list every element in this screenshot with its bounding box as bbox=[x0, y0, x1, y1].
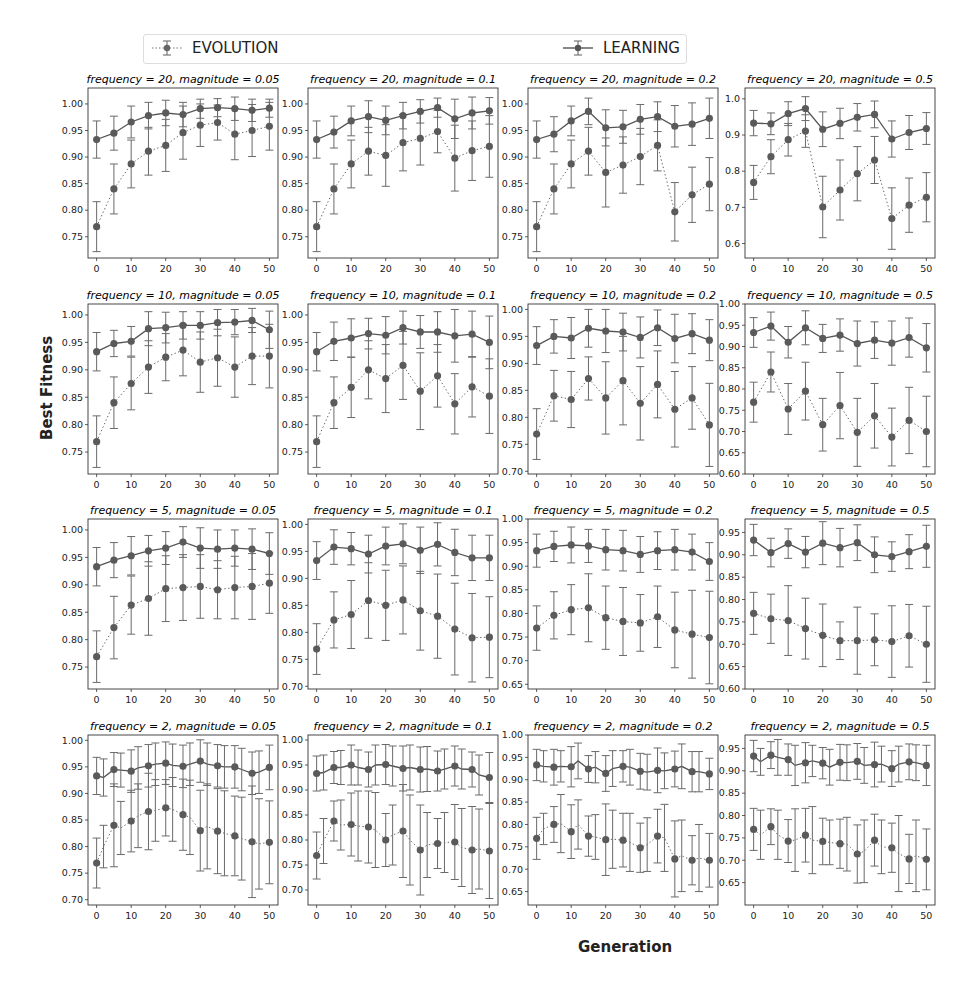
learning-marker bbox=[330, 128, 337, 135]
x-tick-label: 50 bbox=[483, 479, 495, 490]
evolution-marker bbox=[706, 421, 713, 428]
y-tick-label: 0.90 bbox=[282, 364, 303, 375]
y-tick-label: 0.70 bbox=[282, 884, 303, 895]
x-tick-label: 20 bbox=[817, 263, 829, 274]
learning-marker bbox=[399, 540, 406, 547]
x-tick-label: 10 bbox=[565, 479, 577, 490]
learning-marker bbox=[706, 558, 713, 565]
evolution-marker bbox=[313, 852, 320, 859]
evolution-marker bbox=[819, 632, 826, 639]
y-tick-label: 0.85 bbox=[719, 571, 740, 582]
x-tick-label: 30 bbox=[414, 479, 426, 490]
x-tick-label: 50 bbox=[920, 694, 932, 705]
evolution-marker bbox=[417, 135, 424, 142]
x-tick-label: 30 bbox=[194, 694, 206, 705]
x-tick-label: 40 bbox=[449, 910, 461, 921]
y-tick-label: 0.60 bbox=[719, 468, 740, 479]
y-tick-label: 0.85 bbox=[719, 787, 740, 798]
evolution-marker bbox=[750, 610, 757, 617]
learning-marker bbox=[365, 330, 372, 337]
learning-marker bbox=[533, 136, 540, 143]
x-tick-label: 50 bbox=[483, 263, 495, 274]
learning-marker bbox=[248, 107, 255, 114]
y-tick-label: 0.80 bbox=[502, 608, 523, 619]
learning-marker bbox=[451, 762, 458, 769]
x-tick-label: 40 bbox=[886, 479, 898, 490]
learning-marker bbox=[923, 125, 930, 132]
evolution-marker bbox=[568, 396, 575, 403]
y-tick-label: 0.80 bbox=[502, 412, 523, 423]
x-tick-label: 20 bbox=[160, 263, 172, 274]
y-tick-label: 0.95 bbox=[502, 331, 523, 342]
x-tick-label: 10 bbox=[565, 694, 577, 705]
subplot-title: frequency = 10, magnitude = 0.2 bbox=[530, 289, 716, 302]
y-tick-label: 0.75 bbox=[502, 841, 523, 852]
evolution-marker bbox=[486, 143, 493, 150]
x-tick-label: 30 bbox=[414, 263, 426, 274]
evolution-marker bbox=[637, 400, 644, 407]
evolution-marker bbox=[619, 377, 626, 384]
learning-marker bbox=[836, 544, 843, 551]
subplot: frequency = 5, magnitude = 0.50.600.650.… bbox=[719, 504, 935, 705]
learning-marker bbox=[888, 765, 895, 772]
learning-marker bbox=[619, 763, 626, 770]
y-tick-label: 0.65 bbox=[502, 886, 523, 897]
learning-marker bbox=[197, 105, 204, 112]
x-tick-label: 0 bbox=[314, 263, 320, 274]
evolution-marker bbox=[365, 148, 372, 155]
evolution-marker bbox=[248, 352, 255, 359]
y-tick-label: 0.75 bbox=[502, 231, 523, 242]
x-tick-label: 0 bbox=[314, 479, 320, 490]
evolution-marker bbox=[923, 428, 930, 435]
evolution-marker bbox=[162, 585, 169, 592]
learning-marker bbox=[802, 759, 809, 766]
x-tick-label: 10 bbox=[345, 479, 357, 490]
subplot: frequency = 5, magnitude = 0.050.750.800… bbox=[62, 504, 278, 705]
x-tick-label: 50 bbox=[263, 910, 275, 921]
learning-marker bbox=[854, 539, 861, 546]
evolution-marker bbox=[313, 645, 320, 652]
learning-marker bbox=[905, 129, 912, 136]
y-tick-label: 0.85 bbox=[719, 362, 740, 373]
evolution-marker bbox=[785, 405, 792, 412]
learning-marker bbox=[767, 323, 774, 330]
y-tick-label: 0.75 bbox=[719, 405, 740, 416]
evolution-marker bbox=[706, 857, 713, 864]
learning-marker bbox=[585, 108, 592, 115]
evolution-marker bbox=[197, 122, 204, 129]
x-tick-label: 0 bbox=[94, 263, 100, 274]
evolution-marker bbox=[550, 612, 557, 619]
y-tick-label: 0.80 bbox=[282, 834, 303, 845]
learning-marker bbox=[365, 113, 372, 120]
y-tick-label: 1.00 bbox=[62, 524, 83, 535]
x-tick-label: 50 bbox=[703, 263, 715, 274]
learning-marker bbox=[382, 542, 389, 549]
learning-marker bbox=[802, 549, 809, 556]
x-tick-label: 40 bbox=[229, 263, 241, 274]
learning-marker bbox=[602, 546, 609, 553]
x-tick-label: 10 bbox=[345, 694, 357, 705]
learning-marker bbox=[854, 114, 861, 121]
learning-marker bbox=[179, 322, 186, 329]
learning-marker bbox=[619, 123, 626, 130]
x-tick-label: 40 bbox=[449, 479, 461, 490]
learning-marker bbox=[836, 331, 843, 338]
x-tick-label: 40 bbox=[669, 910, 681, 921]
evolution-marker bbox=[785, 136, 792, 143]
learning-marker bbox=[654, 324, 661, 331]
y-tick-label: 0.70 bbox=[502, 655, 523, 666]
x-tick-label: 10 bbox=[782, 694, 794, 705]
learning-marker bbox=[871, 551, 878, 558]
x-tick-label: 20 bbox=[160, 694, 172, 705]
learning-marker bbox=[468, 554, 475, 561]
learning-marker bbox=[179, 111, 186, 118]
learning-marker bbox=[654, 113, 661, 120]
evolution-marker bbox=[93, 438, 100, 445]
x-tick-label: 50 bbox=[483, 694, 495, 705]
x-tick-label: 20 bbox=[160, 479, 172, 490]
y-tick-label: 0.80 bbox=[62, 634, 83, 645]
y-tick-label: 0.70 bbox=[282, 681, 303, 692]
y-tick-label: 0.90 bbox=[719, 341, 740, 352]
evolution-marker bbox=[399, 139, 406, 146]
y-tick-label: 0.65 bbox=[502, 679, 523, 690]
